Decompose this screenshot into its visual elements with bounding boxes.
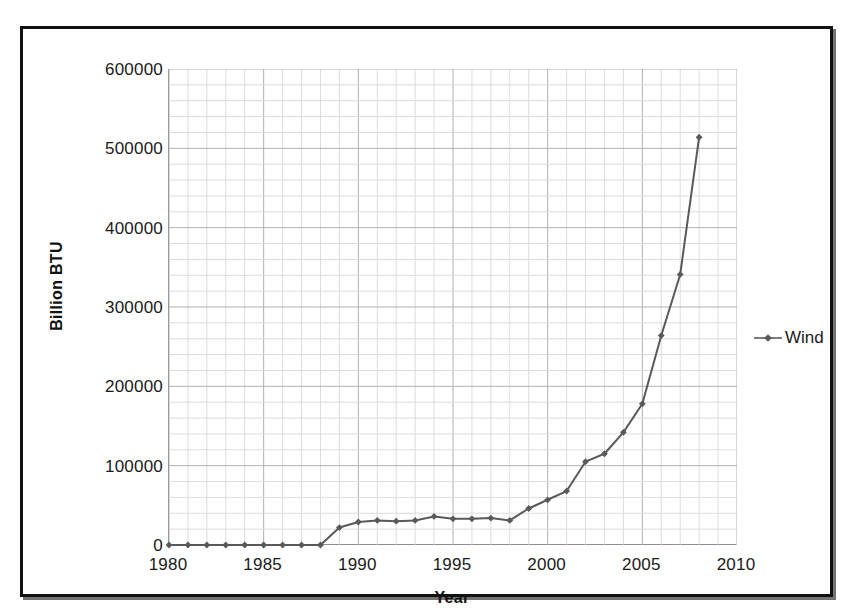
x-tick-label: 1980 [133, 556, 203, 573]
y-axis-title: Billion BTU [48, 226, 66, 346]
chart-figure: 0100000200000300000400000500000600000 Bi… [0, 0, 850, 612]
figure-border: 0100000200000300000400000500000600000 Bi… [20, 26, 833, 597]
x-axis-title: Year [168, 589, 736, 607]
x-tick-label: 1990 [322, 556, 392, 573]
x-axis-tick-labels: 1980198519901995200020052010 [168, 556, 736, 582]
plot-area [168, 69, 736, 545]
legend-marker-icon [753, 331, 783, 345]
x-tick-label: 2010 [701, 556, 771, 573]
x-tick-label: 2005 [606, 556, 676, 573]
y-tick-label: 600000 [79, 61, 163, 78]
data-series-wind [169, 69, 737, 545]
y-tick-label: 500000 [79, 140, 163, 157]
y-tick-label: 100000 [79, 458, 163, 475]
y-tick-label: 400000 [79, 220, 163, 237]
chart-legend: Wind [753, 329, 824, 346]
legend-label-wind: Wind [785, 329, 824, 346]
y-tick-label: 0 [79, 537, 163, 554]
y-tick-label: 200000 [79, 378, 163, 395]
y-tick-label: 300000 [79, 299, 163, 316]
x-tick-label: 1985 [228, 556, 298, 573]
x-tick-label: 2000 [512, 556, 582, 573]
x-tick-label: 1995 [417, 556, 487, 573]
y-axis-tick-labels: 0100000200000300000400000500000600000 [71, 69, 163, 545]
